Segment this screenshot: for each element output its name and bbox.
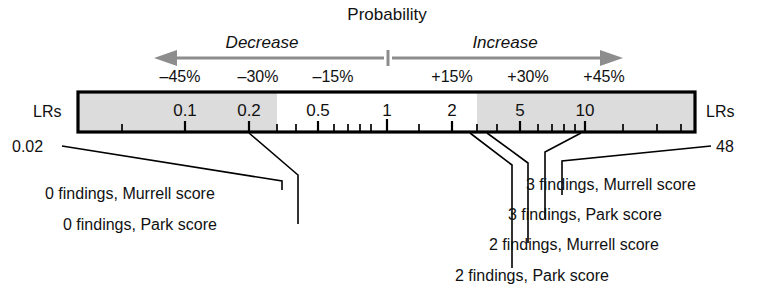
scale-label-5: 5 xyxy=(515,101,524,120)
callout-0-park: 0 findings, Park score xyxy=(63,216,217,233)
callout-0-murrell: 0 findings, Murrell score xyxy=(45,185,215,202)
page-title: Probability xyxy=(347,5,427,24)
direction-label-decrease: Decrease xyxy=(226,33,299,52)
scale-label-10: 10 xyxy=(576,101,595,120)
scale-label-0-1: 0.1 xyxy=(173,101,197,120)
decrease-arrow-icon xyxy=(154,50,384,66)
endpoint-value-left: 0.02 xyxy=(12,138,43,155)
scale-label-0-5: 0.5 xyxy=(306,101,330,120)
shift-label-plus15: +15% xyxy=(431,68,472,85)
shift-label-minus30: –30% xyxy=(238,68,279,85)
scale-label-2: 2 xyxy=(447,101,456,120)
axis-label-lrs-right: LRs xyxy=(706,103,734,120)
axis-label-lrs-left: LRs xyxy=(33,103,61,120)
shift-label-minus45: –45% xyxy=(160,68,201,85)
scale-label-1: 1 xyxy=(382,101,391,120)
lr-nomogram-figure: Probability Decrease Increase –45% –30% … xyxy=(0,0,774,305)
callout-2-park: 2 findings, Park score xyxy=(455,267,609,284)
leader-line-2-murrell xyxy=(487,133,528,243)
shift-label-minus15: –15% xyxy=(313,68,354,85)
callout-3-park: 3 findings, Park score xyxy=(508,206,662,223)
callout-2-murrell: 2 findings, Murrell score xyxy=(489,236,659,253)
shift-label-plus45: +45% xyxy=(583,68,624,85)
leader-line-0-murrell xyxy=(62,146,282,190)
increase-arrow-icon xyxy=(392,50,623,66)
leader-line-0-park xyxy=(249,133,298,224)
endpoint-value-right: 48 xyxy=(716,138,734,155)
direction-label-increase: Increase xyxy=(472,33,537,52)
callout-3-murrell: 3 findings, Murrell score xyxy=(526,176,696,193)
shift-label-plus30: +30% xyxy=(507,68,548,85)
nomogram-svg: Probability Decrease Increase –45% –30% … xyxy=(0,0,774,305)
scale-label-0-2: 0.2 xyxy=(237,101,261,120)
